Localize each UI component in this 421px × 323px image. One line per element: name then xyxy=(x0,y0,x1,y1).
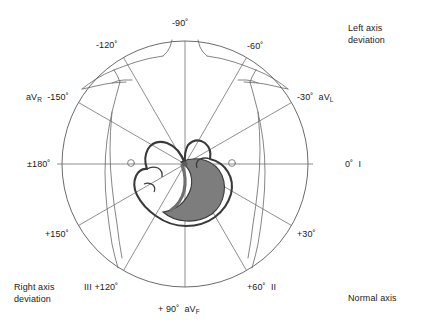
quadrant-label-line1: Right axis xyxy=(14,282,55,292)
quadrant-label-right-axis-deviation: Right axisdeviation xyxy=(14,281,55,305)
lead-name: I xyxy=(358,159,361,169)
quadrant-label-left-axis-deviation: Left axisdeviation xyxy=(348,22,385,46)
axis-label-minus-60: -60˚ xyxy=(247,41,263,52)
lead-name: III xyxy=(84,282,92,292)
axis-label-minus-90: -90˚ xyxy=(172,18,188,29)
axis-degrees: -60˚ xyxy=(247,41,263,51)
axis-degrees: ±180˚ xyxy=(27,159,50,169)
axis-degrees: +30˚ xyxy=(297,229,316,239)
quadrant-label-line2: deviation xyxy=(348,35,385,45)
axis-degrees: -90˚ xyxy=(172,18,188,28)
lead-name: II xyxy=(271,282,276,292)
axis-degrees: +60˚ xyxy=(247,282,266,292)
quadrant-label-normal-axis: Normal axis xyxy=(348,292,397,304)
axis-degrees: 0˚ xyxy=(345,159,353,169)
axis-label-plus-90: + 90˚ aVF xyxy=(158,304,200,315)
axis-degrees: -30˚ xyxy=(297,92,313,102)
lead-name: aVF xyxy=(184,304,199,314)
axis-label-zero: 0˚ I xyxy=(345,159,361,170)
quadrant-label-line1: Normal axis xyxy=(348,293,397,303)
axis-label-plus-150: +150˚ xyxy=(45,229,69,240)
axis-degrees: + 90˚ xyxy=(158,304,179,314)
axis-label-minus-120: -120˚ xyxy=(96,40,118,51)
axis-degrees: -150˚ xyxy=(47,92,69,102)
lead-name: aVR xyxy=(26,92,42,102)
axis-degrees: +120˚ xyxy=(94,282,118,292)
quadrant-label-line2: deviation xyxy=(14,294,51,304)
quadrant-label-line1: Left axis xyxy=(348,23,382,33)
lead-name: aVL xyxy=(319,92,334,102)
axis-degrees: +150˚ xyxy=(45,229,69,239)
axis-label-plus-120: III +120˚ xyxy=(84,282,118,293)
axis-label-plus-60: +60˚ II xyxy=(247,282,276,293)
axis-label-minus-150: aVR -150˚ xyxy=(26,92,69,103)
heart-electrical-origin xyxy=(182,161,187,166)
axis-label-plus-30: +30˚ xyxy=(297,229,316,240)
axis-label-minus-30: -30˚ aVL xyxy=(297,92,334,103)
axis-degrees: -120˚ xyxy=(96,40,118,50)
axis-label-plus-180: ±180˚ xyxy=(27,159,50,170)
